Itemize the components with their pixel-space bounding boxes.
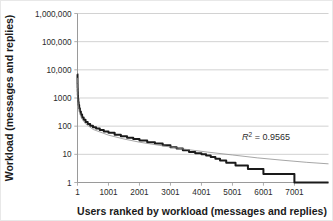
x-tick-label: 4001 (192, 188, 211, 197)
x-tick-label: 7001 (285, 188, 304, 197)
x-tick-label: 1 (75, 188, 80, 197)
x-tick-label: 5001 (223, 188, 242, 197)
x-tick-label: 6001 (254, 188, 273, 197)
x-tick-label: 1001 (99, 188, 118, 197)
x-tick-label: 2001 (130, 188, 149, 197)
chart-container: 11001200130014001500160017001 1101001000… (0, 0, 333, 221)
x-axis-title: Users ranked by workload (messages and r… (77, 205, 327, 217)
y-axis-title: Workload (messages and replies) (3, 15, 15, 182)
y-tick-label: 10 (62, 150, 72, 159)
y-tick-label: 1,000,000 (35, 10, 72, 19)
y-tick-label: 100 (58, 122, 72, 131)
y-tick-label: 1000 (53, 94, 72, 103)
y-tick-label: 1 (67, 179, 72, 188)
x-tick-label: 3001 (161, 188, 180, 197)
y-tick-label: 100,000 (42, 38, 72, 47)
y-tick-label: 10,000 (46, 66, 71, 75)
chart-plot: 11001200130014001500160017001 1101001000… (1, 1, 333, 221)
